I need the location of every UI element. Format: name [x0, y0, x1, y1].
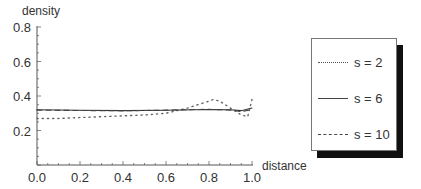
x-tick-label: 1.0	[243, 170, 261, 185]
legend-label: s = 2	[354, 55, 383, 70]
solid-line-swatch	[318, 98, 348, 99]
series-lines	[37, 99, 252, 118]
series-dotted-line	[37, 99, 252, 118]
x-tick-label: 0.8	[200, 170, 218, 185]
x-axis-label: distance	[262, 159, 307, 173]
y-tick-label: 0.8	[13, 20, 31, 35]
legend: s = 2 s = 6 s = 10	[311, 38, 397, 151]
x-tick-label: 0.4	[114, 170, 132, 185]
dotted-line-swatch	[318, 62, 348, 63]
y-axis-label: density	[22, 4, 60, 18]
legend-item-s2: s = 2	[318, 55, 383, 70]
axes: 0.00.20.40.60.81.00.20.40.60.8densitydis…	[13, 4, 307, 185]
x-tick-label: 0.2	[71, 170, 89, 185]
legend-label: s = 6	[354, 91, 383, 106]
series-dashed-line	[37, 109, 252, 111]
y-tick-label: 0.4	[13, 89, 31, 104]
legend-item-s6: s = 6	[318, 91, 383, 106]
x-tick-label: 0.0	[28, 170, 46, 185]
y-tick-label: 0.6	[13, 55, 31, 70]
x-tick-label: 0.6	[157, 170, 175, 185]
legend-label: s = 10	[354, 127, 390, 142]
dashed-line-swatch	[318, 134, 348, 135]
y-tick-label: 0.2	[13, 124, 31, 139]
legend-item-s10: s = 10	[318, 127, 390, 142]
